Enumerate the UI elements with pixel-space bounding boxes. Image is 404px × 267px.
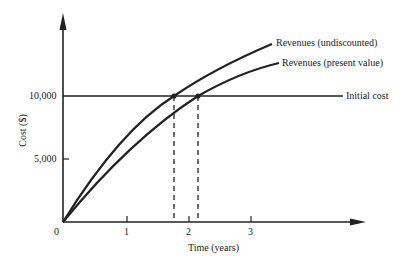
revenues-undiscounted-line bbox=[63, 44, 272, 222]
x-axis-title: Time (years) bbox=[188, 242, 239, 253]
x-axis-arrow-icon bbox=[350, 219, 366, 226]
y-tick-label-5000: 5,000 bbox=[34, 153, 57, 164]
label-revenues-undiscounted: Revenues (undiscounted) bbox=[276, 37, 377, 48]
y-axis-arrow-icon bbox=[60, 13, 67, 30]
revenues-present-value-line bbox=[63, 63, 279, 222]
x-tick-label-0: 0 bbox=[54, 226, 59, 237]
intersection-undiscounted-marker bbox=[171, 93, 176, 98]
intersection-present-value-marker bbox=[195, 93, 200, 98]
y-tick-label-10000: 10,000 bbox=[29, 90, 57, 101]
x-tick-label-2: 2 bbox=[186, 226, 191, 237]
x-tick-label-1: 1 bbox=[124, 226, 129, 237]
label-initial-cost: Initial cost bbox=[346, 90, 389, 101]
x-tick-label-3: 3 bbox=[248, 226, 253, 237]
y-axis-title: Cost ($) bbox=[17, 111, 28, 151]
label-revenues-present-value: Revenues (present value) bbox=[282, 57, 383, 68]
